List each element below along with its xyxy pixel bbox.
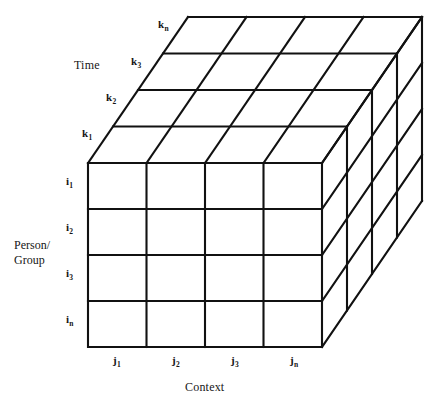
tick-label-context-j1: j1: [113, 355, 120, 367]
tick-sub-i2: 2: [69, 227, 73, 236]
tick-sub-jn: n: [294, 360, 298, 369]
axis-title-person-group: Person/ Group: [14, 238, 50, 268]
axis-title-person-group-line2: Group: [14, 253, 50, 268]
tick-sub-k1: 1: [88, 133, 92, 142]
tick-sub-in: n: [69, 319, 73, 328]
axis-title-person-group-line1: Person/: [14, 238, 50, 253]
tick-label-time-k1: k1: [82, 128, 92, 140]
tick-sub-i3: 3: [69, 273, 73, 282]
axis-title-context: Context: [185, 381, 224, 394]
tick-label-time-k2: k2: [106, 92, 116, 104]
tick-label-context-j3: j3: [231, 355, 238, 367]
axis-title-time: Time: [74, 59, 100, 72]
cube-diagram: [0, 0, 446, 404]
tick-sub-k2: 2: [112, 97, 116, 106]
tick-label-context-j2: j2: [172, 355, 179, 367]
tick-sub-k3: 3: [137, 61, 141, 70]
tick-label-person-i2: i2: [66, 222, 73, 234]
tick-sub-j1: 1: [117, 360, 121, 369]
tick-label-person-in: in: [66, 314, 73, 326]
tick-sub-i1: 1: [69, 181, 73, 190]
tick-sub-j2: 2: [176, 360, 180, 369]
tick-label-time-kn: kn: [158, 19, 168, 31]
tick-label-time-k3: k3: [131, 56, 141, 68]
tick-label-person-i1: i1: [66, 176, 73, 188]
tick-label-context-jn: jn: [290, 355, 298, 367]
figure-root: Time k1 k2 k3 kn Person/ Group i1 i2 i3 …: [0, 0, 446, 404]
tick-label-person-i3: i3: [66, 268, 73, 280]
tick-sub-kn: n: [164, 24, 168, 33]
tick-sub-j3: 3: [235, 360, 239, 369]
